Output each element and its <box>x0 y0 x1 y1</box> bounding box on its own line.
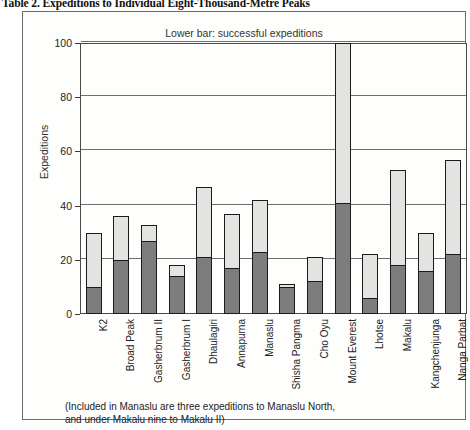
figure-title: Table 2. Expeditions to Individual Eight… <box>2 0 310 9</box>
bar-group[interactable] <box>390 43 406 314</box>
x-axis-label: Mount Everest <box>347 319 358 383</box>
bar-success[interactable] <box>335 203 351 314</box>
bar-success[interactable] <box>418 271 434 314</box>
y-tick-label-60: 60 <box>42 145 72 157</box>
bar-success[interactable] <box>113 260 129 314</box>
bar-success[interactable] <box>279 287 295 314</box>
bar-group[interactable] <box>169 43 185 314</box>
y-tick-label-100: 100 <box>42 37 72 49</box>
bar-group[interactable] <box>252 43 268 314</box>
x-axis-label: Gasherbrum II <box>153 319 164 383</box>
bar-success[interactable] <box>86 287 102 314</box>
bar-group[interactable] <box>86 43 102 314</box>
x-axis-label: Annapurna <box>236 319 247 368</box>
chart-frame: Lower bar: successful expeditions Expedi… <box>22 11 466 420</box>
bars-layer <box>80 43 467 314</box>
bar-group[interactable] <box>307 43 323 314</box>
footnote-line-1: (Included in Manaslu are three expeditio… <box>65 400 335 413</box>
bar-group[interactable] <box>113 43 129 314</box>
y-tick-label-40: 40 <box>42 200 72 212</box>
x-axis-label: Shisha Pangma <box>291 319 302 390</box>
bar-group[interactable] <box>418 43 434 314</box>
x-axis-label: Dhaulagiri <box>208 319 219 364</box>
bar-success[interactable] <box>445 254 461 314</box>
bar-group[interactable] <box>141 43 157 314</box>
bar-success[interactable] <box>252 252 268 314</box>
bar-success[interactable] <box>141 241 157 314</box>
y-tick-mark-0 <box>75 314 80 315</box>
y-tick-label-80: 80 <box>42 91 72 103</box>
x-axis-label: Nanga Parbat <box>457 319 468 381</box>
x-axis-label: Gasherbrum I <box>181 319 192 380</box>
bar-success[interactable] <box>196 257 212 314</box>
y-tick-label-20: 20 <box>42 254 72 266</box>
legend-note: Lower bar: successful expeditions <box>23 27 465 39</box>
bar-group[interactable] <box>335 43 351 314</box>
bar-success[interactable] <box>390 265 406 314</box>
footnote: (Included in Manaslu are three expeditio… <box>65 400 335 426</box>
x-axis-label: Broad Peak <box>125 319 136 371</box>
x-axis-label: Kangchenjunga <box>430 319 441 389</box>
bar-group[interactable] <box>279 43 295 314</box>
bar-success[interactable] <box>169 276 185 314</box>
x-axis-label: Makalu <box>402 319 413 351</box>
x-axis-label: Cho Oyu <box>319 319 330 358</box>
gridline-100 <box>81 41 466 42</box>
x-axis-label: K2 <box>98 319 109 331</box>
x-axis-label: Manaslu <box>264 319 275 357</box>
bar-success[interactable] <box>307 281 323 314</box>
bar-success[interactable] <box>362 298 378 314</box>
footnote-line-2: and under Makalu nine to Makalu II) <box>65 413 335 426</box>
bar-success[interactable] <box>224 268 240 314</box>
x-axis-label: Lhotse <box>374 319 385 349</box>
y-tick-label-0: 0 <box>42 308 72 320</box>
bar-group[interactable] <box>196 43 212 314</box>
bar-group[interactable] <box>224 43 240 314</box>
bar-group[interactable] <box>362 43 378 314</box>
bar-group[interactable] <box>445 43 461 314</box>
